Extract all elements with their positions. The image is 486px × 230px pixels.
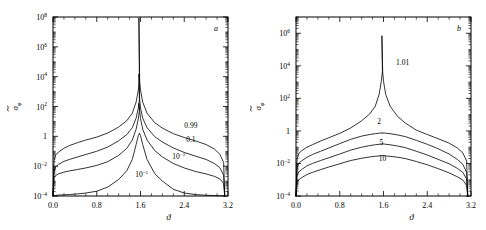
y-tick-exponent: −2 [284, 158, 290, 164]
y-axis-title-text: σφ [253, 102, 265, 110]
y-tick-label: 1 [43, 132, 47, 141]
y-tick-label: 104 [36, 71, 47, 81]
y-tick-label: 108 [36, 12, 47, 22]
y-tick-mantissa: 10 [33, 192, 41, 201]
tilde-accent-icon [250, 106, 251, 112]
y-tick-mantissa: 10 [276, 159, 284, 168]
panel-b-svg: 0.00.81.62.43.2106104102110−210−41.01251… [243, 0, 486, 230]
y-axis-title: σφ [7, 102, 21, 111]
y-tick-mantissa: 10 [36, 43, 44, 52]
y-tick-label: 10−4 [33, 191, 47, 201]
y-tick-mantissa: 10 [36, 103, 44, 112]
panel-letter: b [457, 24, 461, 33]
curve-label: 10 [379, 154, 387, 163]
y-tick-label: 104 [279, 61, 290, 71]
curve-label-text: 2 [377, 117, 381, 126]
curve-label: 0.1 [186, 135, 196, 144]
y-tick-label: 1 [286, 127, 290, 136]
y-tick-mantissa: 10 [279, 29, 287, 38]
x-tick-label: 3.2 [466, 201, 476, 210]
y-tick-mantissa: 1 [43, 132, 47, 141]
y-tick-mantissa: 10 [279, 62, 287, 71]
curve-label-exponent: −2 [180, 152, 186, 157]
x-axis-title: ϑ [166, 212, 171, 222]
y-axis-title-subscript: φ [16, 102, 22, 106]
curve-label: 10−5 [135, 170, 148, 179]
x-tick-label: 2.4 [422, 201, 432, 210]
y-tick-label: 106 [279, 28, 290, 38]
y-tick-exponent: 4 [44, 71, 47, 77]
data-curve-101 [296, 36, 468, 196]
curve-label: 10−2 [172, 152, 185, 161]
curve-label-text: 1.01 [396, 58, 409, 67]
y-tick-exponent: 8 [44, 12, 47, 18]
x-axis-title: ϑ [409, 212, 414, 222]
curve-label-text: 5 [379, 138, 383, 147]
y-tick-label: 102 [279, 93, 290, 103]
panel-letter: a [214, 24, 218, 33]
x-tick-label: 0.8 [92, 201, 102, 210]
curve-label-text: 0.1 [186, 135, 196, 144]
y-tick-exponent: −2 [41, 161, 47, 167]
y-tick-mantissa: 10 [276, 192, 284, 201]
y-tick-exponent: −4 [41, 191, 47, 197]
y-tick-mantissa: 1 [286, 127, 290, 136]
curve-label: 0.99 [184, 121, 197, 130]
y-tick-exponent: 4 [287, 61, 290, 67]
x-tick-label: 0.0 [291, 201, 301, 210]
y-tick-exponent: 2 [287, 93, 290, 99]
x-tick-label: 2.4 [179, 201, 189, 210]
y-axis-title: σφ [250, 102, 264, 111]
x-tick-label: 3.2 [223, 201, 233, 210]
x-tick-label: 1.6 [136, 201, 146, 210]
x-tick-label: 0.0 [48, 201, 58, 210]
x-tick-label: 0.8 [335, 201, 345, 210]
x-tick-label: 1.6 [379, 201, 389, 210]
y-axis-title-subscript: φ [259, 102, 265, 106]
y-tick-exponent: 6 [287, 28, 290, 34]
y-tick-exponent: 6 [44, 42, 47, 48]
curve-label: 2 [377, 117, 381, 126]
y-axis-title-text: σφ [10, 102, 22, 110]
panel-a-svg: 0.00.81.62.43.2108106104102110−210−40.99… [0, 0, 243, 230]
plot-panel-b: 0.00.81.62.43.2106104102110−210−41.01251… [243, 0, 486, 230]
y-tick-mantissa: 10 [36, 13, 44, 22]
curve-label-exponent: −5 [143, 170, 149, 175]
curve-label: 1.01 [396, 58, 409, 67]
y-tick-exponent: 2 [44, 101, 47, 107]
data-curve-10 [53, 103, 225, 196]
y-tick-mantissa: 10 [36, 73, 44, 82]
curve-label-text: 0.99 [184, 121, 197, 130]
y-tick-label: 106 [36, 42, 47, 52]
y-tick-mantissa: 10 [279, 94, 287, 103]
curve-label-text: 10 [379, 154, 387, 163]
plot-panel-a: 0.00.81.62.43.2108106104102110−210−40.99… [0, 0, 243, 230]
y-tick-label: 10−2 [276, 158, 290, 168]
y-tick-label: 10−2 [33, 161, 47, 171]
tilde-accent-icon [7, 106, 8, 112]
y-tick-label: 10−4 [276, 191, 290, 201]
figure-container: 0.00.81.62.43.2108106104102110−210−40.99… [0, 0, 486, 230]
y-tick-exponent: −4 [284, 191, 290, 197]
curve-label: 5 [379, 138, 383, 147]
y-tick-label: 102 [36, 101, 47, 111]
y-tick-mantissa: 10 [33, 162, 41, 171]
